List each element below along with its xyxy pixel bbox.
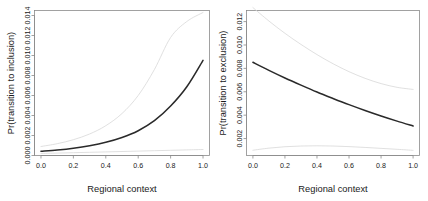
x-tick-label: 0.2 — [68, 162, 78, 170]
y-tick-label: 0.008 — [24, 67, 32, 85]
y-tick-label: 0.006 — [236, 83, 244, 101]
x-tick-label: 0.6 — [133, 162, 143, 170]
x-tick-label: 0.8 — [376, 162, 386, 170]
y-tick-label: 0.010 — [236, 36, 244, 54]
x-axis-inclusion: 0.00.20.40.60.81.0 — [36, 156, 208, 170]
y-tick-label: 0.002 — [24, 127, 32, 145]
lower-ci-curve — [41, 150, 203, 154]
y-axis-exclusion: 0.0020.0040.0060.0080.0100.012 — [236, 13, 246, 148]
y-tick-label: 0.008 — [236, 59, 244, 77]
main-curve — [253, 62, 413, 126]
y-tick-label: 0.014 — [24, 7, 32, 25]
plot-area-exclusion — [247, 8, 420, 156]
x-tick-label: 0.6 — [344, 162, 354, 170]
y-tick-label: 0.010 — [24, 47, 32, 65]
ci-curves — [41, 13, 203, 154]
x-tick-label: 0.4 — [101, 162, 111, 170]
x-tick-label: 0.8 — [166, 162, 176, 170]
y-tick-label: 0.004 — [24, 107, 32, 125]
x-tick-label: 0.0 — [36, 162, 46, 170]
two-panel-figure: 0.0000.0020.0040.0060.0080.0100.0120.014… — [0, 0, 428, 201]
ci-curves — [253, 8, 413, 151]
plot-exclusion: 0.0020.0040.0060.0080.0100.012 0.00.20.4… — [214, 0, 428, 201]
y-tick-label: 0.004 — [236, 106, 244, 124]
y-tick-label: 0.000 — [24, 147, 32, 165]
x-tick-label: 1.0 — [408, 162, 418, 170]
x-tick-label: 0.2 — [280, 162, 290, 170]
panel-exclusion: 0.0020.0040.0060.0080.0100.012 0.00.20.4… — [214, 0, 428, 201]
y-tick-label: 0.006 — [24, 87, 32, 105]
x-axis-exclusion: 0.00.20.40.60.81.0 — [248, 156, 418, 170]
plot-frame — [247, 11, 420, 156]
upper-ci-curve — [41, 13, 203, 147]
x-tick-label: 0.4 — [312, 162, 322, 170]
panel-inclusion: 0.0000.0020.0040.0060.0080.0100.0120.014… — [0, 0, 214, 201]
plot-area-inclusion — [35, 11, 210, 156]
y-tick-label: 0.012 — [236, 13, 244, 31]
x-tick-label: 0.0 — [248, 162, 258, 170]
y-axis-title: Pr(transition to exclusion) — [218, 31, 228, 136]
plot-inclusion: 0.0000.0020.0040.0060.0080.0100.0120.014… — [0, 0, 214, 201]
main-curve — [41, 60, 203, 151]
y-axis-title: Pr(transition to inclusion) — [6, 32, 16, 134]
y-tick-label: 0.002 — [236, 130, 244, 148]
lower-ci-curve — [253, 146, 413, 151]
upper-ci-curve — [253, 8, 413, 90]
x-tick-label: 1.0 — [198, 162, 208, 170]
x-axis-title: Regional context — [298, 184, 368, 194]
x-axis-title: Regional context — [87, 184, 157, 194]
y-axis-inclusion: 0.0000.0020.0040.0060.0080.0100.0120.014 — [24, 7, 34, 165]
y-tick-label: 0.012 — [24, 27, 32, 45]
plot-frame — [35, 11, 210, 156]
